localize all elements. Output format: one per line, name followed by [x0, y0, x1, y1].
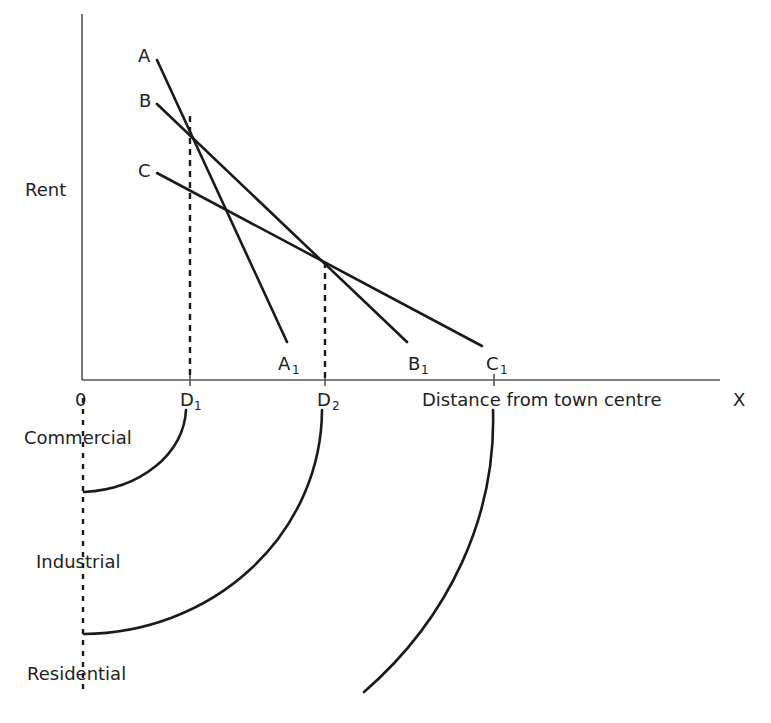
svg-text:1: 1	[292, 363, 300, 377]
residential-zone-arc	[364, 410, 493, 692]
zone-label-commercial: Commercial	[24, 427, 132, 448]
origin-label: 0	[75, 389, 86, 410]
commercial-zone-arc	[84, 410, 186, 492]
bid-rent-line-c	[157, 173, 482, 346]
svg-text:B: B	[408, 353, 420, 374]
x-axis-end-label: X	[733, 389, 745, 410]
line-b-end-label: B 1	[408, 353, 429, 377]
svg-text:1: 1	[194, 399, 202, 413]
y-axis-label: Rent	[25, 179, 66, 200]
svg-text:D: D	[317, 389, 331, 410]
x-axis-title: Distance from town centre	[422, 389, 661, 410]
svg-text:A: A	[278, 353, 291, 374]
svg-text:D: D	[180, 389, 194, 410]
svg-text:1: 1	[421, 363, 429, 377]
line-a-end-label: A 1	[278, 353, 300, 377]
svg-text:2: 2	[332, 399, 340, 413]
svg-text:1: 1	[500, 363, 508, 377]
line-c-end-label: C 1	[486, 353, 508, 377]
bid-rent-line-a	[157, 60, 287, 342]
line-c-start-label: C	[138, 160, 151, 181]
d1-label: D 1	[180, 389, 202, 413]
zone-label-industrial: Industrial	[36, 551, 120, 572]
bid-rent-diagram: Rent A B C A 1 B 1 C 1 0 D 1 D 2 Distanc…	[0, 0, 771, 723]
bid-rent-line-b	[157, 104, 407, 342]
svg-text:C: C	[486, 353, 499, 374]
line-a-start-label: A	[138, 45, 151, 66]
zone-label-residential: Residential	[27, 663, 126, 684]
d2-label: D 2	[317, 389, 340, 413]
line-b-start-label: B	[139, 90, 151, 111]
